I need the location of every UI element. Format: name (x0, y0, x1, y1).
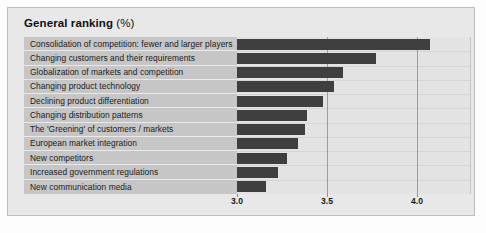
category-label-row: Consolidation of competition: fewer and … (24, 37, 237, 51)
category-label-text: Changing distribution patterns (30, 110, 143, 120)
category-label-row: Changing distribution patterns (24, 108, 237, 122)
bar-row (237, 37, 470, 51)
bar (237, 167, 278, 178)
x-axis: 3.03.54.0 (237, 194, 471, 207)
category-label-text: Consolidation of competition: fewer and … (30, 39, 232, 49)
category-label-row: New competitors (24, 151, 237, 165)
bar-row (237, 94, 470, 108)
bar-row (237, 165, 470, 179)
category-label-text: Increased government regulations (30, 167, 158, 177)
category-label-text: European market integration (30, 138, 137, 148)
bar-row (237, 123, 470, 137)
bar (237, 153, 287, 164)
category-label-row: European market integration (24, 137, 237, 151)
category-label-column: Consolidation of competition: fewer and … (24, 37, 237, 194)
chart-title: General ranking (%) (24, 17, 135, 29)
bar-row (237, 108, 470, 122)
bar-row (237, 180, 470, 194)
chart-title-main: General ranking (24, 17, 113, 29)
category-label-text: New competitors (30, 153, 93, 163)
bar (237, 39, 430, 50)
category-label-row: Globalization of markets and competition (24, 66, 237, 80)
bar-row (237, 151, 470, 165)
bar (237, 81, 334, 92)
category-label-text: Declining product differentiation (30, 96, 149, 106)
category-label-text: Changing customers and their requirement… (30, 53, 195, 63)
bar-row (237, 137, 470, 151)
bar (237, 124, 305, 135)
bar (237, 53, 376, 64)
bar-row (237, 51, 470, 65)
plot-area (237, 37, 471, 194)
category-label-text: New communication media (30, 182, 132, 192)
plot-inner (237, 37, 470, 194)
category-label-row: Changing customers and their requirement… (24, 51, 237, 65)
x-axis-tick-label: 4.0 (411, 196, 423, 206)
bar-row (237, 80, 470, 94)
bar (237, 181, 266, 192)
category-label-row: Increased government regulations (24, 165, 237, 179)
x-axis-tick-label: 3.5 (321, 196, 333, 206)
category-label-row: New communication media (24, 180, 237, 194)
bar (237, 96, 323, 107)
chart-title-unit: (%) (116, 17, 134, 29)
category-label-row: The 'Greening' of customers / markets (24, 123, 237, 137)
bar (237, 110, 307, 121)
bar-row (237, 66, 470, 80)
category-label-text: The 'Greening' of customers / markets (30, 124, 173, 134)
chart-panel: General ranking (%) Consolidation of com… (7, 7, 475, 216)
category-label-text: Globalization of markets and competition (30, 67, 183, 77)
chart-body: Consolidation of competition: fewer and … (24, 37, 471, 207)
category-label-row: Changing product technology (24, 80, 237, 94)
bar (237, 138, 298, 149)
category-label-row: Declining product differentiation (24, 94, 237, 108)
x-axis-tick-label: 3.0 (231, 196, 243, 206)
category-label-text: Changing product technology (30, 81, 140, 91)
bar (237, 67, 343, 78)
chart-screenshot: General ranking (%) Consolidation of com… (0, 0, 486, 233)
